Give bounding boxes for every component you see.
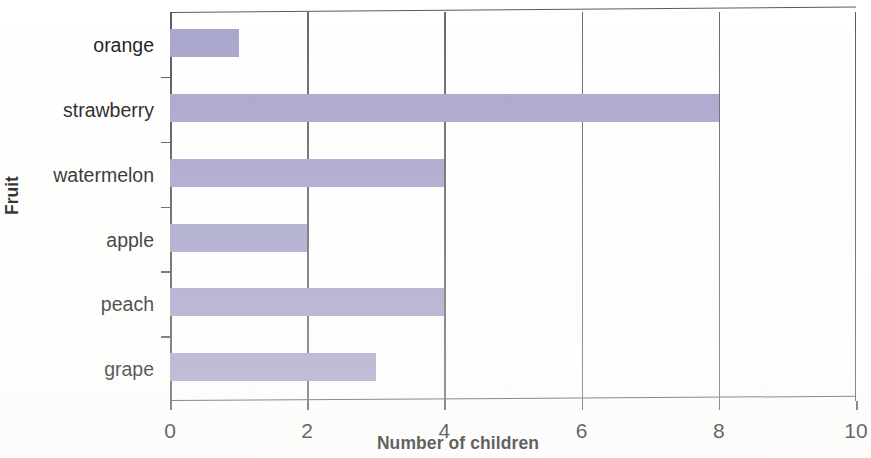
y-axis-label-4: peach [101,295,154,315]
y-axis-tick [161,207,170,209]
y-axis-line [170,12,172,401]
y-axis-category-labels: orange strawberry watermelon apple peach… [0,0,162,458]
y-axis-tick [161,271,170,273]
x-axis-tick-0 [170,401,172,410]
y-axis-tick [161,336,170,338]
bar-chart-figure: orange strawberry watermelon apple peach… [0,0,871,458]
x-axis-tick-4 [444,401,446,410]
x-axis-tick-6 [582,401,584,410]
gridline-8 [719,12,720,401]
y-axis-label-2: watermelon [53,166,154,186]
plot-area: 0 2 4 6 8 10 [170,12,856,401]
y-axis-tick [161,142,170,144]
y-axis-title: Fruit [2,156,23,236]
x-axis-title-text: Number of children [377,433,539,454]
x-axis-tick-2 [307,401,309,410]
x-axis-tick-8 [719,401,721,410]
y-axis-tick [161,77,170,79]
bar-peach [170,288,444,316]
y-axis-label-5: grape [104,360,154,380]
y-axis-label-1: strawberry [63,101,154,121]
plot-border-right [855,12,857,401]
y-axis-label-0: orange [93,36,154,56]
bar-strawberry [170,94,719,122]
plot-border-top [170,7,856,14]
bar-grape [170,353,376,381]
x-axis-tick-10 [856,401,858,410]
x-axis-title: Number of children [0,433,871,454]
gridline-4 [444,12,445,401]
gridline-6 [582,12,583,401]
bar-orange [170,29,239,57]
bar-watermelon [170,159,444,187]
bar-apple [170,224,307,252]
gridline-2 [307,12,308,401]
y-axis-label-3: apple [106,231,154,251]
plot-border-bottom [170,395,856,401]
